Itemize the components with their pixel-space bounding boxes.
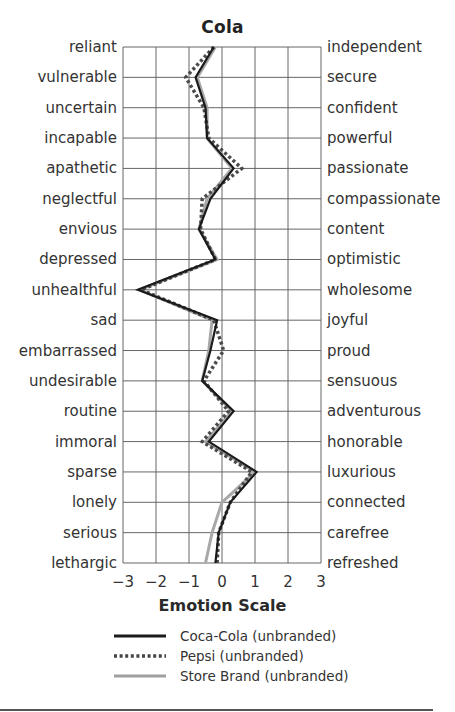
left-row-label: lonely: [72, 493, 117, 511]
left-row-label: unhealthful: [32, 281, 117, 299]
legend-label: Store Brand (unbranded): [180, 668, 349, 684]
right-row-label: carefree: [327, 524, 389, 542]
right-row-label: joyful: [326, 311, 368, 329]
left-row-label: incapable: [44, 129, 117, 147]
x-axis-label: Emotion Scale: [0, 596, 445, 615]
left-row-label: depressed: [39, 250, 117, 268]
right-row-label: connected: [327, 493, 406, 511]
right-row-label: adventurous: [327, 402, 421, 420]
x-tick-label: 1: [250, 573, 260, 591]
right-row-label: proud: [327, 342, 371, 360]
legend-item-coca-cola: Coca-Cola (unbranded): [112, 626, 349, 646]
left-row-label: apathetic: [46, 159, 117, 177]
right-row-label: optimistic: [327, 250, 401, 268]
right-row-label: sensuous: [327, 372, 398, 390]
left-row-label: uncertain: [46, 99, 117, 117]
emotion-profile-chart: reliantindependentvulnerablesecureuncert…: [0, 0, 455, 600]
right-row-label: honorable: [327, 433, 403, 451]
left-row-label: vulnerable: [37, 68, 117, 86]
left-row-label: neglectful: [42, 190, 117, 208]
x-tick-label: −3: [112, 573, 134, 591]
dotted-line-swatch-icon: [112, 651, 168, 661]
left-row-label: undesirable: [29, 372, 117, 390]
light-line-swatch-icon: [112, 671, 168, 681]
right-row-label: luxurious: [327, 463, 396, 481]
left-row-label: immoral: [55, 433, 117, 451]
right-row-label: compassionate: [327, 190, 441, 208]
right-row-label: secure: [327, 68, 377, 86]
left-row-label: lethargic: [51, 554, 117, 572]
left-row-label: routine: [64, 402, 117, 420]
left-row-label: serious: [63, 524, 117, 542]
series-line-store: [140, 47, 256, 563]
legend-label: Pepsi (unbranded): [180, 648, 304, 664]
right-row-label: powerful: [327, 129, 392, 147]
legend-item-store-brand: Store Brand (unbranded): [112, 666, 349, 686]
x-tick-label: −2: [145, 573, 167, 591]
left-row-label: sad: [90, 311, 117, 329]
solid-line-swatch-icon: [112, 631, 168, 641]
series-line-pepsi: [141, 47, 252, 563]
legend: Coca-Cola (unbranded) Pepsi (unbranded) …: [112, 626, 349, 686]
right-row-label: wholesome: [327, 281, 412, 299]
right-row-label: content: [327, 220, 385, 238]
left-row-label: embarrassed: [19, 342, 117, 360]
right-row-label: passionate: [327, 159, 409, 177]
x-tick-label: −1: [178, 573, 200, 591]
legend-item-pepsi: Pepsi (unbranded): [112, 646, 349, 666]
right-row-label: confident: [327, 99, 398, 117]
x-tick-label: 2: [283, 573, 293, 591]
legend-label: Coca-Cola (unbranded): [180, 628, 336, 644]
left-row-label: reliant: [69, 38, 117, 56]
left-row-label: envious: [59, 220, 117, 238]
x-tick-label: 3: [316, 573, 326, 591]
bottom-rule-divider: [0, 709, 433, 711]
left-row-label: sparse: [67, 463, 117, 481]
right-row-label: independent: [327, 38, 422, 56]
right-row-label: refreshed: [327, 554, 398, 572]
x-tick-label: 0: [217, 573, 227, 591]
